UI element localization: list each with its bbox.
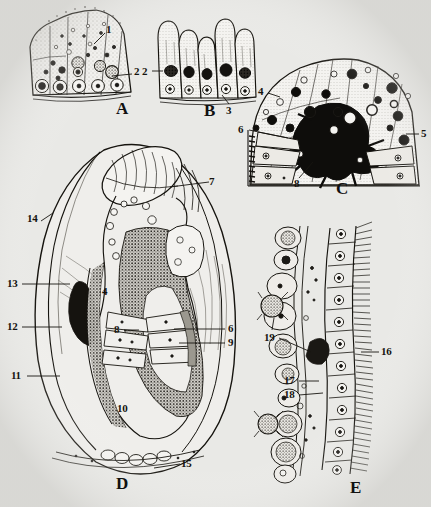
callout-e-19: 19 [264, 332, 274, 343]
callout-e-18: 18 [284, 389, 294, 400]
callout-a-2: 2 [134, 66, 139, 77]
callout-e-16: 16 [381, 346, 391, 357]
callout-b-2: 2 [142, 66, 147, 77]
panel-letter-e: E [350, 479, 361, 496]
panel-letter-a: A [116, 100, 128, 117]
callout-d-9: 9 [228, 337, 233, 348]
callout-c-5: 5 [421, 128, 426, 139]
figure-plate: 1 2 A 2 3 B 4 5 6 8 C 7 14 13 12 11 4 8 … [0, 0, 431, 507]
callout-d-12: 12 [7, 321, 17, 332]
callout-leader-lines [0, 0, 431, 507]
callout-d-4: 4 [102, 286, 107, 297]
callout-c-4: 4 [258, 86, 263, 97]
panel-letter-b: B [204, 102, 215, 119]
callout-d-6: 6 [228, 323, 233, 334]
panel-letter-c: C [336, 180, 348, 197]
callout-d-13: 13 [7, 278, 17, 289]
callout-c-6: 6 [238, 124, 243, 135]
callout-a-1: 1 [106, 24, 111, 35]
panel-letter-d: D [116, 475, 128, 492]
callout-b-3: 3 [226, 105, 231, 116]
callout-d-7: 7 [209, 176, 214, 187]
figure-caption [8, 498, 428, 507]
callout-c-8: 8 [294, 178, 299, 189]
callout-e-17: 17 [284, 375, 294, 386]
callout-d-10: 10 [117, 403, 127, 414]
callout-d-8: 8 [114, 324, 119, 335]
callout-d-15: 15 [181, 458, 191, 469]
callout-d-11: 11 [11, 370, 21, 381]
callout-d-14: 14 [27, 213, 37, 224]
